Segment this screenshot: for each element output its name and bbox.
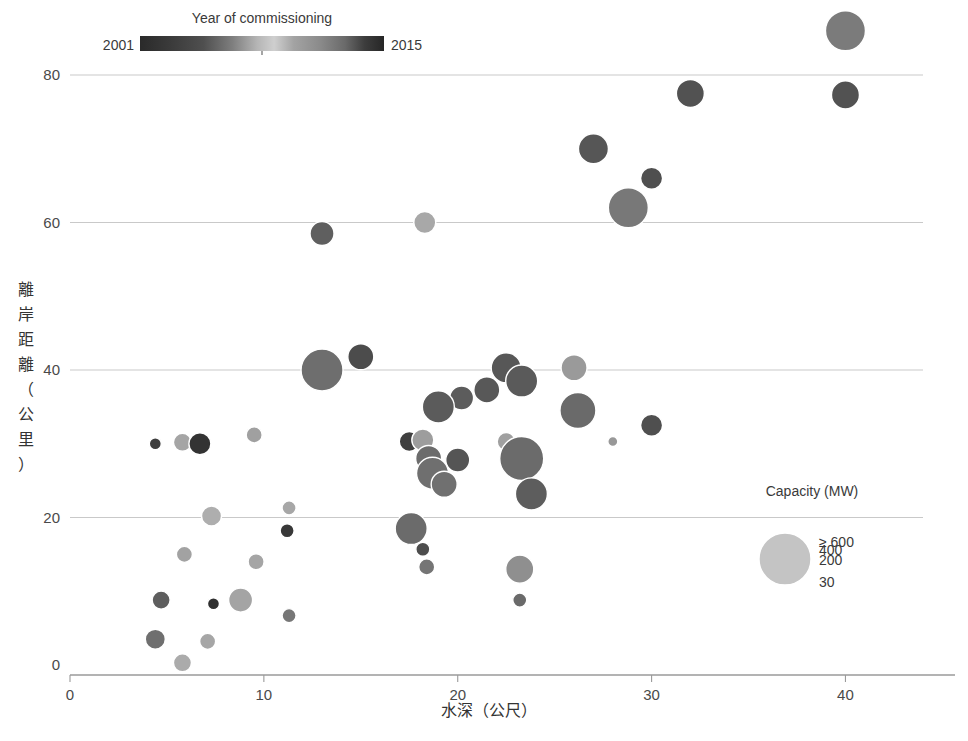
y-axis-title: 離岸距離（公里） — [18, 280, 34, 474]
bubble-point — [831, 81, 859, 109]
color-legend-min-label: 2001 — [103, 37, 134, 53]
bubble-point — [145, 629, 165, 649]
bubble-point — [578, 134, 608, 164]
bubble-point — [149, 438, 161, 450]
bubble-point — [474, 377, 500, 403]
x-axis-title: 水深（公尺） — [441, 701, 537, 720]
bubble-series — [145, 11, 865, 672]
y-axis-title-char: ） — [18, 455, 34, 474]
y-axis-title-char: 離 — [18, 280, 34, 299]
x-tick-label: 30 — [643, 686, 660, 703]
bubble-point — [348, 344, 374, 370]
y-axis-title-char: 公 — [18, 405, 34, 424]
y-tick-label: 40 — [43, 361, 60, 378]
y-axis-title-char: 岸 — [18, 305, 34, 324]
y-axis-title-char: （ — [18, 380, 34, 399]
color-legend-gradient-bar — [140, 36, 384, 51]
color-legend-title: Year of commissioning — [192, 10, 332, 26]
bubble-point — [207, 598, 219, 610]
bubble-point — [395, 513, 427, 545]
bubble-point — [641, 167, 663, 189]
y-tick-label: 60 — [43, 214, 60, 231]
bubble-point — [431, 471, 457, 497]
x-tick-label: 40 — [837, 686, 854, 703]
bubble-point — [310, 222, 334, 246]
bubble-point — [414, 212, 436, 234]
bubble-point — [202, 506, 222, 526]
y-tick-label: 0 — [52, 656, 60, 673]
y-axis-title-char: 距 — [18, 330, 34, 349]
bubble-point — [189, 433, 211, 455]
bubble-point — [282, 609, 296, 623]
bubble-point — [282, 501, 296, 515]
bubble-point — [608, 188, 648, 228]
bubble-point — [608, 437, 618, 447]
bubble-point — [229, 588, 253, 612]
bubble-point — [560, 393, 596, 429]
size-legend-label: 30 — [819, 574, 835, 590]
y-tick-label: 20 — [43, 509, 60, 526]
x-axis: 010203040 — [66, 675, 955, 703]
bubble-point — [641, 414, 663, 436]
bubble-point — [280, 524, 294, 538]
bubble-point — [500, 437, 544, 481]
color-legend-max-label: 2015 — [391, 37, 422, 53]
size-legend-bubble — [759, 533, 811, 585]
bubble-point — [676, 79, 704, 107]
bubble-chart-figure: 010203040 020406080 水深（公尺） 離岸距離（公里） Year… — [0, 0, 968, 741]
bubble-point — [200, 633, 216, 649]
bubble-point — [422, 391, 454, 423]
bubble-point — [561, 355, 587, 381]
bubble-point — [513, 593, 527, 607]
y-tick-label: 80 — [43, 66, 60, 83]
bubble-point — [506, 555, 534, 583]
bubble-point — [246, 427, 262, 443]
x-tick-label: 10 — [256, 686, 273, 703]
bubble-point — [446, 448, 470, 472]
bubble-point — [301, 349, 343, 391]
chart-canvas: 010203040 020406080 水深（公尺） 離岸距離（公里） Year… — [0, 0, 968, 741]
y-axis-title-char: 離 — [18, 355, 34, 374]
capacity-size-legend: Capacity (MW) 30200400≥ 600 — [759, 483, 858, 590]
y-axis-title-char: 里 — [18, 430, 34, 449]
size-legend-title: Capacity (MW) — [766, 483, 859, 499]
bubble-point — [176, 546, 192, 562]
bubble-point — [515, 478, 547, 510]
bubble-point — [416, 542, 430, 556]
bubble-point — [506, 365, 538, 397]
year-color-legend: Year of commissioning 2001 2015 — [103, 10, 423, 55]
bubble-point — [825, 11, 865, 51]
bubble-point — [152, 591, 170, 609]
x-tick-label: 0 — [66, 686, 74, 703]
bubble-point — [419, 559, 435, 575]
bubble-point — [173, 654, 191, 672]
bubble-point — [248, 554, 264, 570]
size-legend-label: ≥ 600 — [819, 534, 854, 550]
